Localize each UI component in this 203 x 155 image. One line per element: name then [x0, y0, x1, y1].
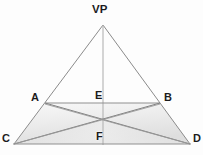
- vertex-label-b: B: [164, 92, 172, 103]
- vertex-label-d: D: [193, 133, 201, 144]
- vertex-label-a: A: [31, 92, 39, 103]
- vertex-label-vp: VP: [92, 4, 107, 16]
- vertex-label-f: F: [96, 131, 103, 142]
- vertex-label-c: C: [2, 133, 10, 144]
- perspective-diagram-canvas: VP A E B C F D: [0, 0, 203, 155]
- vertex-label-e: E: [95, 90, 102, 101]
